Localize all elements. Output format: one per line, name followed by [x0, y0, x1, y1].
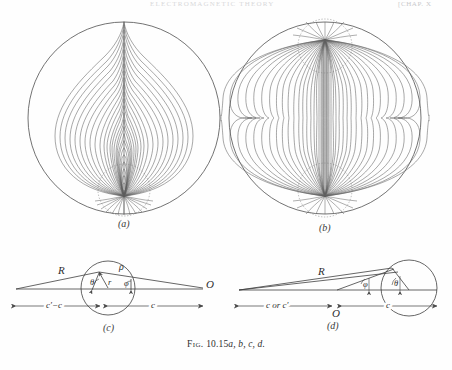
panel-a-artwork — [28, 22, 220, 216]
panel-c-ray-rho-upper — [99, 272, 203, 288]
panel-c-label-theta: θ — [90, 277, 94, 287]
svg-text:c or c′: c or c′ — [266, 300, 289, 310]
figure-caption: Fig. 10.15a, b, c, d. — [0, 339, 452, 349]
panel-c-artwork — [16, 261, 203, 315]
figure-artwork: R ρ θ r φ O c′−c c′−c c c R φ θ O c or c… — [0, 0, 452, 370]
panel-c-label-rho: ρ — [118, 261, 124, 272]
panel-c-label-r: r — [108, 277, 112, 287]
svg-text:c′−c: c′−c — [46, 300, 62, 310]
panel-b-artwork — [221, 19, 429, 217]
panel-c-label-R: R — [57, 264, 65, 276]
caption-fig-word: Fig. — [187, 339, 204, 349]
panel-c-radius-r — [99, 272, 108, 288]
caption-parts: a, b, c, d. — [228, 339, 265, 349]
panel-c-label-phi: φ — [124, 278, 129, 288]
panel-d-label-R: R — [317, 265, 325, 277]
panel-label-d: (d) — [327, 320, 339, 331]
svg-text:c: c — [151, 300, 155, 310]
panel-d-label-O: O — [332, 307, 340, 319]
panel-c-label-O: O — [206, 278, 214, 290]
figure-page: ELECTROMAGNETIC THEORY [CHAP. X — [0, 0, 452, 370]
panel-label-b: (b) — [319, 222, 331, 233]
panel-d-label-phi: φ — [363, 279, 368, 289]
panel-b-pole-spokes — [293, 22, 357, 214]
panel-label-a: (a) — [118, 218, 130, 229]
caption-number: 10.15 — [206, 339, 228, 349]
svg-text:c: c — [386, 300, 390, 310]
panel-d-label-theta: θ — [394, 278, 398, 288]
panel-b-field-lines — [221, 40, 429, 196]
panel-label-c: (c) — [103, 322, 114, 333]
